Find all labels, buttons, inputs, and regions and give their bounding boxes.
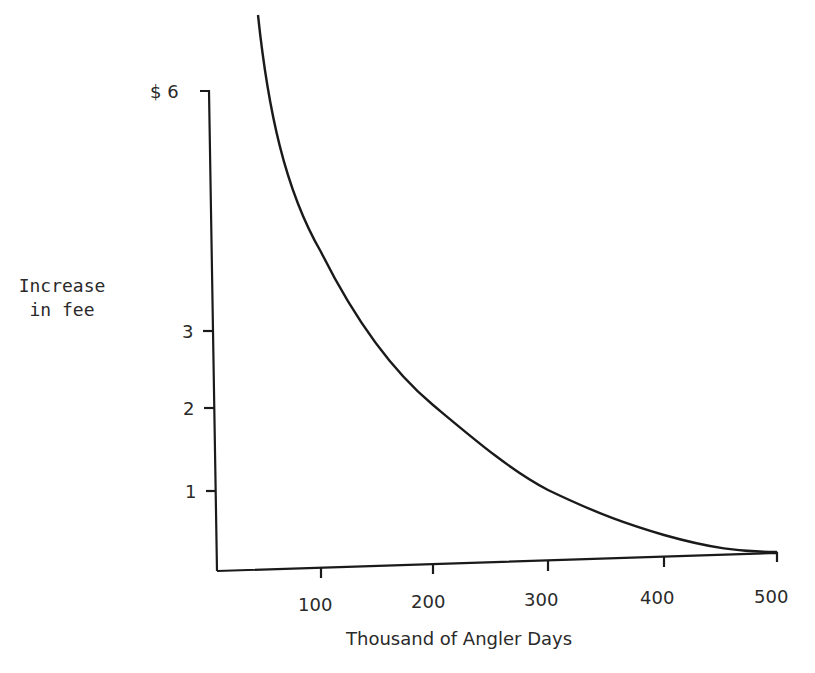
x-axis [217, 553, 777, 571]
x-tick-label-400: 400 [640, 587, 674, 608]
y-tick-label-3: 3 [182, 321, 193, 342]
y-tick-label-6: $ 6 [150, 81, 179, 102]
y-tick-label-2: 2 [183, 398, 194, 419]
x-axis-title: Thousand of Angler Days [345, 628, 572, 649]
y-tick-label-1: 1 [185, 481, 196, 502]
x-ticks [321, 557, 664, 578]
x-tick-label-100: 100 [298, 594, 332, 615]
y-axis-title-line-1: Increase [6, 274, 118, 298]
x-tick-label-300: 300 [524, 589, 558, 610]
demand-curve [258, 15, 777, 552]
x-tick-label-200: 200 [411, 591, 445, 612]
y-axis-title-line-2: in fee [6, 298, 118, 322]
chart: $ 6 3 2 1 100 200 300 400 500 Thousand o… [0, 0, 815, 673]
x-tick-label-500: 500 [754, 586, 788, 607]
y-axis-title: Increase in fee [6, 274, 118, 322]
